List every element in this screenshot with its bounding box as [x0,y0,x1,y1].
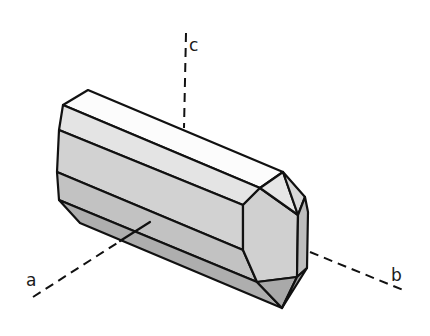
axis-b-line [310,252,403,290]
crystal-body [57,90,308,308]
axis-c-line [184,33,186,128]
axis-label-b: b [391,265,402,285]
crystal-diagram: c a b [0,0,430,336]
axis-label-c: c [189,35,198,55]
axis-label-a: a [26,270,36,290]
